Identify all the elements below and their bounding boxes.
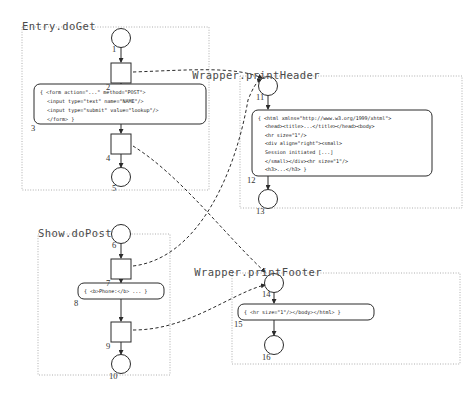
node-number-7: 7	[106, 278, 110, 288]
node-number-15: 15	[234, 319, 243, 329]
node-number-12: 12	[247, 175, 256, 185]
node-7	[111, 259, 131, 279]
cluster-label-entry-doget: Entry.doGet	[22, 20, 96, 32]
node-number-11: 11	[256, 92, 264, 102]
code-line-n3-1: { <form action="..." method="POST">	[40, 89, 146, 95]
cluster-label-wrapper-printfooter: Wrapper.printFooter	[194, 266, 322, 278]
code-line-n3-4: </form> }	[47, 116, 74, 122]
node-number-13: 13	[256, 206, 265, 216]
code-line-n12-4: <div align="right"><small>	[265, 140, 342, 147]
cluster-label-show-dopost: Show.doPost	[38, 227, 112, 239]
node-number-16: 16	[262, 352, 271, 362]
code-line-n15-1: { <hr size="1"/></body></html> }	[244, 309, 341, 316]
code-line-n12-5: Session initiated [...]	[265, 149, 333, 155]
node-number-5: 5	[112, 183, 116, 193]
code-line-n3-3: <input type="submit" value="lookup"/>	[47, 107, 159, 114]
diagram-background	[0, 0, 468, 393]
node-9	[111, 322, 131, 342]
cluster-label-wrapper-printheader: Wrapper.printHeader	[192, 69, 320, 81]
code-line-n3-2: <input type="text" name="NAME"/>	[47, 98, 144, 105]
code-line-n12-3: <hr size="1"/>	[265, 132, 306, 138]
node-number-6: 6	[112, 240, 116, 250]
node-4	[111, 134, 131, 154]
code-line-n12-1: { <html xmlns="http://www.w3.org/1999/xh…	[258, 115, 391, 122]
node-number-10: 10	[109, 371, 118, 381]
node-number-3: 3	[31, 123, 35, 133]
code-line-n12-6: </small></div><hr size="1"/>	[265, 158, 348, 164]
node-2	[111, 63, 131, 83]
code-line-n8-1: { <b>Phone:</b> ... }	[84, 288, 147, 294]
node-number-9: 9	[106, 341, 110, 351]
control-flow-diagram: 12345678910111213141516 { <form action="…	[0, 0, 468, 393]
node-number-14: 14	[262, 289, 271, 299]
code-line-n12-2: <head><title>...</title></head><body>	[265, 123, 375, 130]
code-line-n12-7: <h3>...</h3> }	[265, 166, 306, 172]
node-number-1: 1	[112, 44, 116, 54]
node-number-8: 8	[74, 298, 78, 308]
